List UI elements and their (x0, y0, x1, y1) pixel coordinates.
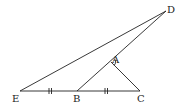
segment-AC (111, 62, 140, 91)
label-C: C (137, 93, 145, 104)
segment-ED (20, 11, 166, 91)
label-D: D (167, 4, 175, 15)
label-E: E (12, 93, 19, 104)
label-A: A (111, 54, 120, 65)
segment-BD (77, 11, 166, 91)
label-B: B (73, 93, 80, 104)
geometry-diagram: D A E B C (0, 0, 184, 110)
